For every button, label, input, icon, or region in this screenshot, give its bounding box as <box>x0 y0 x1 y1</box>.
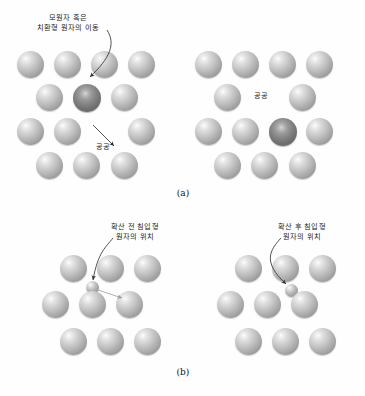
label-vacancy-left: 공공 <box>85 142 121 152</box>
caption-b: (b) <box>163 367 203 377</box>
atom-normal <box>97 328 124 355</box>
label-moving-atom-line2: 치환형 원자의 이동 <box>37 23 99 32</box>
atom-normal <box>309 255 336 282</box>
atom-normal <box>17 118 44 145</box>
atom-normal <box>272 328 299 355</box>
lattice-a-left <box>14 48 174 188</box>
atom-normal <box>217 291 244 318</box>
figure-root: 모원자 혹은 치환형 원자의 이동 공공 공공 (a) <box>0 0 365 396</box>
lattice-a-right <box>192 48 352 188</box>
atom-normal <box>289 84 316 111</box>
atom-normal <box>134 255 161 282</box>
label-moving-atom: 모원자 혹은 치환형 원자의 이동 <box>18 13 118 32</box>
atom-normal <box>134 328 161 355</box>
atom-normal <box>79 291 106 318</box>
atom-normal <box>17 51 44 78</box>
lattice-b-right <box>213 253 353 363</box>
atom-normal <box>111 84 138 111</box>
label-interstitial-before-line2: 원자의 위치 <box>116 232 154 241</box>
atom-normal <box>195 118 222 145</box>
atom-normal <box>291 291 318 318</box>
lattice-b-left <box>38 253 178 363</box>
atom-normal <box>289 152 316 179</box>
atom-substitutional-moved <box>269 118 297 146</box>
atom-substitutional-moving <box>73 84 101 112</box>
atom-normal <box>128 118 155 145</box>
atom-normal <box>60 328 87 355</box>
atom-normal <box>91 51 118 78</box>
atom-normal <box>235 255 262 282</box>
atom-normal <box>97 255 124 282</box>
atom-normal <box>306 51 333 78</box>
atom-normal <box>251 152 278 179</box>
atom-normal <box>214 152 241 179</box>
caption-a: (a) <box>163 188 203 198</box>
label-interstitial-before: 확산 전 침입형 원자의 위치 <box>85 222 185 241</box>
atom-normal <box>116 291 143 318</box>
atom-normal <box>36 152 63 179</box>
atom-normal <box>54 51 81 78</box>
atom-normal <box>54 118 81 145</box>
atom-normal <box>128 51 155 78</box>
atom-normal <box>36 84 63 111</box>
label-interstitial-after: 확산 후 침입형 원자의 위치 <box>252 222 352 241</box>
atom-normal <box>306 118 333 145</box>
panel-b: 확산 전 침입형 원자의 위치 확산 후 침입형 원자의 위치 (b) <box>0 205 365 396</box>
label-vacancy-right: 공공 <box>243 91 279 101</box>
label-interstitial-after-line1: 확산 후 침입형 <box>278 222 325 231</box>
panel-a: 모원자 혹은 치환형 원자의 이동 공공 공공 (a) <box>0 0 365 205</box>
atom-normal <box>269 51 296 78</box>
atom-normal <box>232 118 259 145</box>
atom-normal <box>214 84 241 111</box>
atom-normal <box>73 152 100 179</box>
atom-normal <box>235 328 262 355</box>
label-moving-atom-line1: 모원자 혹은 <box>49 13 87 22</box>
atom-normal <box>254 291 281 318</box>
atom-normal <box>309 328 336 355</box>
atom-normal <box>60 255 87 282</box>
atom-normal <box>42 291 69 318</box>
label-interstitial-before-line1: 확산 전 침입형 <box>111 222 158 231</box>
atom-normal <box>111 152 138 179</box>
atom-normal <box>272 255 299 282</box>
label-interstitial-after-line2: 원자의 위치 <box>283 232 321 241</box>
atom-normal <box>195 51 222 78</box>
atom-normal <box>232 51 259 78</box>
